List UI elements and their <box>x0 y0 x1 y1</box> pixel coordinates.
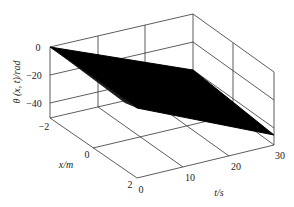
x-tick-0: 0 <box>85 149 90 160</box>
x-axis-label: x/m <box>58 159 73 170</box>
t-tick-10: 10 <box>185 172 195 183</box>
z-tick-minus40: −40 <box>26 98 42 109</box>
t-tick-0: 0 <box>139 184 144 195</box>
t-axis-label: t/s <box>214 187 224 198</box>
surface-plot: 0 −20 −40 −2 0 2 0 10 20 30 x/m t/s θ (x… <box>0 0 294 207</box>
x-tick-minus2: −2 <box>39 121 50 132</box>
t-tick-20: 20 <box>231 161 241 172</box>
z-tick-0: 0 <box>36 42 41 53</box>
x-tick-2: 2 <box>128 179 133 190</box>
t-tick-30: 30 <box>275 150 285 161</box>
surface <box>50 47 274 135</box>
z-axis-label: θ (x, t)/rad <box>11 60 23 104</box>
z-tick-minus20: −20 <box>26 70 42 81</box>
